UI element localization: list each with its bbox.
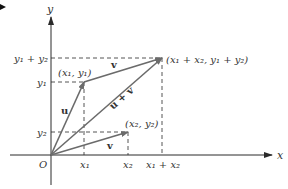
vector-label-v-bottom: v	[106, 140, 114, 151]
point-label-sum: (x₁ + x₂, y₁ + y₂)	[166, 54, 248, 65]
y-axis-label: y	[46, 3, 54, 16]
x-tick-x2: x₂	[123, 159, 133, 170]
x-tick-x1: x₁	[80, 159, 90, 170]
vector-label-u: u	[61, 105, 68, 116]
y-tick-y2: y₂	[36, 127, 47, 138]
point-label-p2: (x₂, y₂)	[125, 118, 159, 129]
vector-u	[51, 82, 84, 155]
y-tick-y1: y₁	[36, 77, 47, 88]
point-label-p1: (x₁, y₁)	[58, 67, 92, 78]
vector-addition-diagram: y x O y₁ + y₂ y₁ y₂ x₁ x₂ x₁ + x₂ (x₁, y…	[0, 0, 288, 189]
vector-v	[51, 132, 128, 155]
vector-label-v-top: v	[110, 59, 118, 70]
x-tick-x1-plus-x2: x₁ + x₂	[146, 159, 180, 170]
vector-label-u-plus-v: u + v	[107, 84, 137, 112]
x-axis-label: x	[277, 149, 284, 162]
corner-arrow-icon	[0, 4, 6, 10]
vector-v-translated	[84, 58, 162, 82]
origin-label: O	[39, 159, 47, 170]
y-tick-y1-plus-y2: y₁ + y₂	[13, 53, 48, 64]
